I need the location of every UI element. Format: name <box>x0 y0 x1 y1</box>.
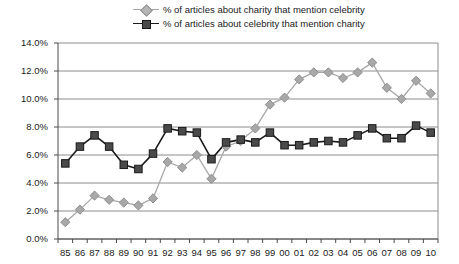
data-point-marker <box>266 129 274 137</box>
data-point-marker <box>105 143 113 151</box>
data-point-marker <box>62 160 69 168</box>
y-axis-tick-label: 4.0% <box>4 178 48 188</box>
y-axis-tick-label: 6.0% <box>4 150 48 160</box>
data-point-marker <box>120 161 128 169</box>
data-point-marker <box>281 141 289 149</box>
y-axis-tick-label: 10.0% <box>4 94 48 104</box>
data-point-marker <box>119 198 128 207</box>
data-point-marker <box>222 139 230 147</box>
data-point-marker <box>252 139 260 147</box>
data-point-marker <box>164 125 172 132</box>
data-point-marker <box>398 134 406 142</box>
data-point-marker <box>368 125 376 132</box>
data-point-marker <box>324 68 333 77</box>
data-point-marker <box>135 165 143 173</box>
y-axis-tick-label: 2.0% <box>4 206 48 216</box>
data-point-marker <box>208 155 216 163</box>
data-point-marker <box>338 73 347 82</box>
chart-container: % of articles about charity that mention… <box>0 0 459 264</box>
data-point-marker <box>295 141 303 149</box>
data-point-marker <box>178 127 186 135</box>
data-point-marker <box>383 134 391 142</box>
data-point-marker <box>354 132 362 140</box>
y-axis-tick-label: 8.0% <box>4 122 48 132</box>
plot-area: 0.0%2.0%4.0%6.0%8.0%10.0%12.0%14.0% 8586… <box>0 0 459 264</box>
data-point-marker <box>163 157 172 166</box>
x-axis-tick-label: 10 <box>422 248 440 258</box>
data-point-marker <box>339 139 347 147</box>
data-point-marker <box>148 194 157 203</box>
data-point-marker <box>76 143 84 151</box>
data-point-marker <box>193 129 201 137</box>
series-line-0 <box>65 63 430 223</box>
data-point-marker <box>91 132 99 140</box>
data-point-marker <box>265 100 274 109</box>
data-point-marker <box>427 129 435 137</box>
data-point-marker <box>309 68 318 77</box>
data-point-marker <box>134 201 143 210</box>
data-point-marker <box>412 122 420 130</box>
data-point-marker <box>310 139 318 147</box>
data-point-marker <box>237 136 245 144</box>
data-point-marker <box>149 150 157 158</box>
data-point-marker <box>325 137 333 145</box>
data-point-marker <box>105 195 114 204</box>
y-axis-tick-label: 12.0% <box>4 66 48 76</box>
data-point-marker <box>353 68 362 77</box>
data-point-marker <box>368 58 377 67</box>
data-point-marker <box>207 174 216 183</box>
chart-svg <box>0 0 459 264</box>
y-axis-tick-label: 0.0% <box>4 234 48 244</box>
y-axis-tick-label: 14.0% <box>4 38 48 48</box>
